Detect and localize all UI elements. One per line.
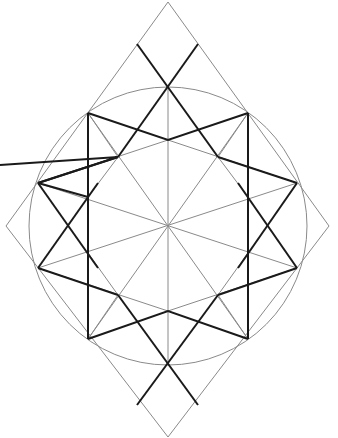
diagram-canvas [0,0,338,438]
inner-right-bottom [218,253,248,339]
inner-right-top [218,113,248,197]
inner-left-bottom [88,253,118,339]
construction-lines [6,2,329,437]
geometric-star-diagram [0,0,338,438]
inner-left-top [88,113,118,197]
star-outline [0,44,297,405]
